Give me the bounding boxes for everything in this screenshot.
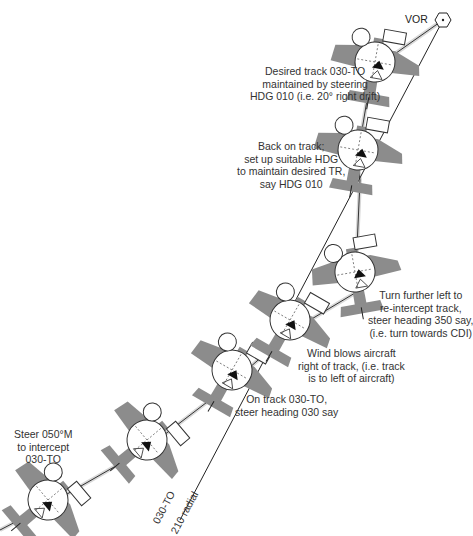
annotation-turn-left: Turn further left to re-intercept track,…: [368, 289, 473, 339]
annotation-on-track: On track 030-TO, steer heading 030 say: [235, 393, 338, 418]
annotation-wind-drift: Wind blows aircraft right of track, (i.e…: [298, 347, 405, 385]
annotation-steer-intercept: Steer 050°M to intercept 030-TO: [14, 428, 72, 466]
vor-icon: [435, 13, 451, 27]
aircraft-2: [82, 384, 203, 506]
vor-label: VOR: [405, 13, 428, 25]
annotation-desired-track: Desired track 030-TO maintained by steer…: [250, 65, 380, 103]
annotation-back-on-track: Back on track; set up suitable HDG to ma…: [237, 140, 345, 190]
